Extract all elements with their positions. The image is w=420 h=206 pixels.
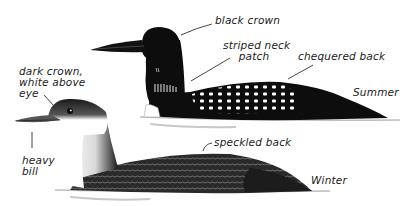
label-dark-crown: dark crown, white above eye — [19, 66, 85, 99]
summer-text: Summer — [353, 86, 399, 98]
season-label-winter: Winter — [311, 175, 347, 186]
loon-illustration: black crown striped neck patch chequered… — [0, 0, 420, 206]
black-crown-text: black crown — [215, 14, 280, 26]
label-black-crown: black crown — [215, 15, 280, 26]
winter-text: Winter — [311, 174, 347, 186]
speckled-back-text: speckled back — [214, 136, 291, 148]
label-chequered-back: chequered back — [298, 51, 385, 62]
label-heavy-bill: heavy bill — [22, 155, 55, 177]
chequered-back-text: chequered back — [298, 50, 385, 62]
dark-crown-line3: eye — [19, 88, 85, 99]
illustration-canvas — [0, 0, 420, 206]
label-striped-neck-patch: striped neck patch — [223, 40, 285, 62]
season-label-summer: Summer — [353, 87, 399, 98]
striped-neck-line2: patch — [223, 51, 285, 62]
label-speckled-back: speckled back — [214, 137, 291, 148]
heavy-bill-line2: bill — [22, 166, 55, 177]
